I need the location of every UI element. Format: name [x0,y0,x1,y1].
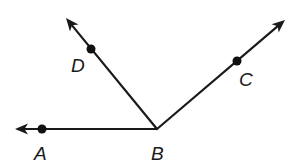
point-d-label: D [71,55,85,76]
angle-diagram: A D C B [0,0,290,166]
point-c-dot [233,57,242,66]
point-a-dot [38,125,47,134]
point-d-dot [87,45,96,54]
vertex-b-label: B [151,143,164,164]
ray-bc-line [157,26,278,129]
ray-bc: C [157,20,285,129]
ray-ba: A [15,124,157,165]
ray-bd-line [72,25,157,129]
ray-bd: D [66,18,157,129]
point-a-label: A [33,143,47,164]
point-c-label: C [239,69,253,90]
